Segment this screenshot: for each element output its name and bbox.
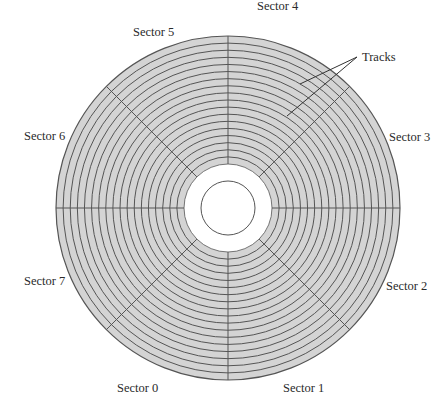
label-sector-6: Sector 6 — [24, 130, 65, 143]
label-sector-1: Sector 1 — [283, 382, 324, 395]
inner-band — [184, 164, 272, 252]
label-sector-2: Sector 2 — [386, 280, 427, 293]
label-sector-4: Sector 4 — [257, 0, 298, 13]
label-sector-7: Sector 7 — [24, 275, 65, 288]
label-sector-5: Sector 5 — [133, 26, 174, 39]
spindle-hole — [201, 181, 255, 235]
label-sector-3: Sector 3 — [389, 131, 430, 144]
label-tracks: Tracks — [362, 51, 396, 64]
label-sector-0: Sector 0 — [117, 382, 158, 395]
